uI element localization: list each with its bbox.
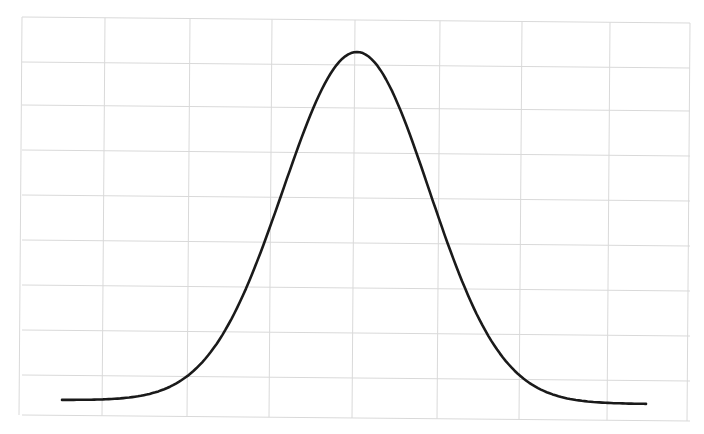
horizontal-gridline (22, 195, 690, 201)
horizontal-gridline (22, 17, 690, 23)
vertical-gridline (607, 22, 610, 420)
horizontal-gridline (22, 285, 690, 291)
bell-curve-chart (0, 0, 704, 434)
horizontal-gridline (22, 415, 690, 421)
vertical-gridline (352, 20, 355, 418)
horizontal-gridline (22, 375, 690, 381)
horizontal-gridline (22, 62, 690, 68)
horizontal-gridline (22, 330, 690, 336)
horizontal-gridline (22, 240, 690, 246)
vertical-gridline (269, 19, 272, 417)
grid (19, 17, 690, 421)
vertical-gridline (102, 18, 105, 416)
chart-canvas (0, 0, 704, 434)
horizontal-gridline (22, 150, 690, 156)
vertical-gridline (519, 21, 522, 419)
vertical-gridline (187, 19, 190, 417)
vertical-gridline (687, 23, 690, 421)
vertical-gridline (19, 17, 22, 415)
horizontal-gridline (22, 105, 690, 111)
